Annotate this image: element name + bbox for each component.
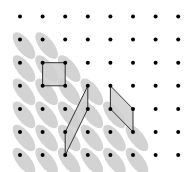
lattice-dot bbox=[154, 153, 158, 157]
lattice-dot bbox=[86, 107, 90, 111]
lattice-dot bbox=[154, 38, 158, 42]
lattice-dot bbox=[86, 84, 90, 88]
lattice-dot bbox=[154, 15, 158, 19]
lattice-dot bbox=[108, 107, 112, 111]
lattice-dot bbox=[176, 15, 180, 19]
lattice-dot bbox=[63, 153, 67, 157]
lattice-dot bbox=[63, 38, 67, 42]
lattice-dot bbox=[131, 61, 135, 65]
lattice-dot bbox=[18, 130, 22, 134]
lattice-dot bbox=[131, 107, 135, 111]
lattice-dot bbox=[154, 61, 158, 65]
lattice-dot bbox=[176, 107, 180, 111]
lattice-dot bbox=[18, 153, 22, 157]
lattice-dot bbox=[108, 15, 112, 19]
lattice-figure bbox=[0, 0, 193, 172]
lattice-dot bbox=[131, 153, 135, 157]
lattice-dot bbox=[41, 38, 45, 42]
lattice-dot bbox=[154, 107, 158, 111]
lattice-dot bbox=[131, 84, 135, 88]
lattice-dot bbox=[18, 61, 22, 65]
lattice-dot bbox=[18, 38, 22, 42]
lattice-dot bbox=[63, 107, 67, 111]
lattice-dot bbox=[131, 15, 135, 19]
lattice-dot bbox=[86, 130, 90, 134]
lattice-dot bbox=[154, 84, 158, 88]
lattice-dot bbox=[41, 84, 45, 88]
lattice-dot bbox=[41, 153, 45, 157]
lattice-dot bbox=[86, 153, 90, 157]
lattice-dot bbox=[176, 153, 180, 157]
lattice-dot bbox=[41, 61, 45, 65]
lattice-dot bbox=[176, 61, 180, 65]
lattice-dot bbox=[154, 130, 158, 134]
lattice-dot bbox=[41, 15, 45, 19]
lattice-dot bbox=[18, 84, 22, 88]
lattice-dot bbox=[176, 84, 180, 88]
lattice-dot bbox=[176, 38, 180, 42]
lattice-dot bbox=[18, 15, 22, 19]
lattice-dot bbox=[63, 130, 67, 134]
square-polygon bbox=[43, 63, 66, 86]
lattice-dot bbox=[63, 15, 67, 19]
lattice-dot bbox=[108, 153, 112, 157]
lattice-dot bbox=[41, 130, 45, 134]
lattice-dot bbox=[63, 61, 67, 65]
lattice-dot bbox=[108, 84, 112, 88]
lattice-dot bbox=[108, 130, 112, 134]
lattice-dot bbox=[63, 84, 67, 88]
lattice-dot bbox=[41, 107, 45, 111]
lattice-dot bbox=[86, 61, 90, 65]
lattice-dot bbox=[108, 38, 112, 42]
lattice-dot bbox=[86, 15, 90, 19]
lattice-dot bbox=[108, 61, 112, 65]
lattice-dot bbox=[131, 130, 135, 134]
lattice-dot bbox=[86, 38, 90, 42]
lattice-dot bbox=[18, 107, 22, 111]
lattice-dot bbox=[131, 38, 135, 42]
lattice-dot bbox=[176, 130, 180, 134]
